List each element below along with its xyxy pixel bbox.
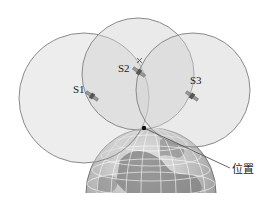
satellite-label-s3: S3 xyxy=(190,75,202,86)
position-dot xyxy=(142,126,146,130)
satellite-label-s1: S1 xyxy=(73,84,85,95)
satellite-label-s2: S2 xyxy=(118,63,130,74)
trilateration-diagram: S1 S2 S3 位置 xyxy=(0,0,276,204)
position-label: 位置 xyxy=(232,164,254,175)
range-circle-s3 xyxy=(136,33,250,147)
